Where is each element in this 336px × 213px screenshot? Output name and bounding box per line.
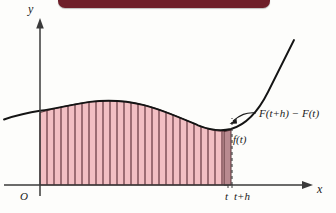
origin-label: O bbox=[20, 190, 28, 202]
shaded-area-under-curve bbox=[40, 95, 228, 186]
height-label-f-of-t: f(t) bbox=[233, 133, 246, 145]
figure-container: y x O t t+h f(t) F(t+h) − F(t) bbox=[0, 0, 336, 213]
tick-label-t-plus-h: t+h bbox=[234, 190, 250, 202]
x-axis-label: x bbox=[317, 182, 322, 197]
highlight-strip-delta-F bbox=[224, 130, 231, 185]
area-label-delta-F: F(t+h) − F(t) bbox=[259, 107, 319, 119]
tick-label-t: t bbox=[225, 190, 228, 202]
y-axis-label: y bbox=[28, 2, 33, 17]
